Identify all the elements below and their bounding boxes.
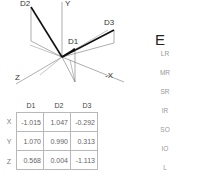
table-cell: -1.113 [71,151,98,170]
table-cell: -0.292 [71,113,98,132]
table-row: -1.015 1.047 -0.292 [17,113,98,132]
d2-vector [31,7,62,57]
table-row: 0.568 0.004 -1.113 [17,151,98,170]
list-item-ir[interactable]: IR [155,107,175,114]
z-axis-extension [30,45,62,57]
table-cell: 0.568 [17,151,44,170]
z-axis-label: Z [15,74,20,82]
vector-diagram: Y Z -X D2 D3 D1 [0,0,150,105]
row-header-y: Y [4,138,14,145]
column-header-d2: D2 [45,102,73,109]
row-header-x: X [4,118,14,125]
d1-endpoint [73,49,76,52]
axes-svg [0,0,150,105]
table-row: 1.070 0.990 0.313 [17,132,98,151]
column-header-d3: D3 [73,102,101,109]
z-axis [16,57,62,84]
list-item-l[interactable]: L [155,164,175,171]
column-header-d1: D1 [17,102,45,109]
list-item-mr[interactable]: MR [155,69,175,76]
row-header-z: Z [4,158,14,165]
table-cell: 0.004 [44,151,71,170]
table-cell: 0.990 [44,132,71,151]
aux-line [40,57,62,75]
panel-title: E [155,32,165,47]
neg-x-axis-label: -X [105,72,113,80]
neg-x-axis [62,57,124,82]
table-cell: -1.015 [17,113,44,132]
list-item-sr[interactable]: SR [155,88,175,95]
table-cell: 1.070 [17,132,44,151]
list-item-lr[interactable]: LR [155,50,175,57]
y-axis-label: Y [65,0,70,8]
list-item-io[interactable]: IO [155,145,175,152]
table-cell: 1.047 [44,113,71,132]
d1-label: D1 [68,38,78,46]
d3-label: D3 [104,19,114,27]
d1-drop-line [70,60,75,82]
vector-components-table: -1.015 1.047 -0.292 1.070 0.990 0.313 0.… [16,112,98,170]
table-cell: 0.313 [71,132,98,151]
table-column-headers: D1 D2 D3 [16,102,101,112]
list-item-so[interactable]: SO [155,126,175,133]
d2-label: D2 [20,0,30,8]
